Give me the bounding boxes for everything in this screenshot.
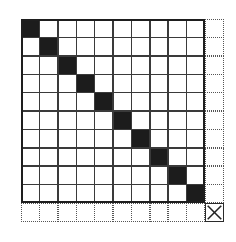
grid-cell — [186, 203, 205, 222]
grid-cell — [168, 129, 187, 148]
grid-cell — [113, 92, 132, 111]
grid-cell — [205, 74, 224, 93]
x-mark-icon — [206, 204, 223, 221]
grid-cell — [94, 184, 113, 203]
grid-cell — [131, 166, 150, 185]
grid-cell-filled — [39, 37, 58, 56]
grid-cell — [186, 92, 205, 111]
grid-cell-x-marked — [205, 203, 224, 222]
grid-cell — [76, 37, 95, 56]
grid-cell — [76, 92, 95, 111]
grid-cell — [168, 203, 187, 222]
grid-cell — [76, 203, 95, 222]
grid-cell — [58, 148, 77, 167]
grid-cell — [150, 56, 169, 75]
grid-cell — [76, 184, 95, 203]
grid-cell-filled — [94, 92, 113, 111]
grid-cell — [21, 111, 40, 130]
grid-cell — [94, 129, 113, 148]
grid-cell — [186, 111, 205, 130]
grid-cell — [113, 166, 132, 185]
grid-cell — [168, 92, 187, 111]
grid-cell — [131, 19, 150, 38]
grid-cell — [113, 184, 132, 203]
grid-cell — [58, 92, 77, 111]
grid-cell — [205, 184, 224, 203]
grid-cell-filled — [168, 166, 187, 185]
grid-cell — [205, 92, 224, 111]
grid-cell — [168, 111, 187, 130]
grid-cell — [186, 19, 205, 38]
grid-cell — [150, 203, 169, 222]
grid-cell — [150, 166, 169, 185]
grid-cell — [39, 74, 58, 93]
grid-cell — [39, 184, 58, 203]
grid-cell — [150, 111, 169, 130]
grid-cell — [94, 111, 113, 130]
grid-cell — [21, 184, 40, 203]
grid-cell — [150, 37, 169, 56]
grid-cell — [58, 19, 77, 38]
grid-cell — [186, 166, 205, 185]
grid-cell — [94, 37, 113, 56]
grid-cell — [131, 37, 150, 56]
diagonal-grid — [21, 19, 223, 221]
grid-cell — [58, 129, 77, 148]
grid-cell — [113, 37, 132, 56]
grid-cell — [76, 148, 95, 167]
grid-cell — [113, 56, 132, 75]
grid-cell — [21, 92, 40, 111]
grid-cell — [186, 37, 205, 56]
grid-cell — [39, 129, 58, 148]
grid-cell-filled — [58, 56, 77, 75]
grid-cell — [205, 19, 224, 38]
grid-cell-filled — [150, 148, 169, 167]
grid-cell — [150, 184, 169, 203]
grid-cell — [58, 74, 77, 93]
grid-cell — [94, 203, 113, 222]
grid-cell — [150, 129, 169, 148]
grid-cell — [21, 129, 40, 148]
grid-cell — [58, 37, 77, 56]
grid-cell — [94, 74, 113, 93]
grid-cell — [94, 56, 113, 75]
grid-cell — [186, 148, 205, 167]
grid-cell — [113, 148, 132, 167]
grid-cell — [21, 56, 40, 75]
grid-cell-filled — [21, 19, 40, 38]
grid-cell — [168, 37, 187, 56]
grid-cell — [168, 74, 187, 93]
grid-cell — [186, 129, 205, 148]
grid-cell — [21, 74, 40, 93]
grid-cell — [131, 111, 150, 130]
grid-cell — [205, 129, 224, 148]
grid-cell — [205, 111, 224, 130]
grid-cell — [39, 92, 58, 111]
grid-cell — [21, 37, 40, 56]
grid-cell — [168, 19, 187, 38]
grid-cell — [76, 129, 95, 148]
grid-cell — [21, 203, 40, 222]
grid-cell — [94, 19, 113, 38]
grid-cell — [205, 37, 224, 56]
grid-cell — [58, 184, 77, 203]
grid-cell — [168, 56, 187, 75]
grid-cell-filled — [131, 129, 150, 148]
grid-cell — [131, 56, 150, 75]
grid-cell — [58, 166, 77, 185]
grid-cell — [113, 19, 132, 38]
grid-cell — [58, 203, 77, 222]
grid-cell — [76, 166, 95, 185]
grid-cell — [131, 74, 150, 93]
grid-cell — [39, 56, 58, 75]
grid-cell — [168, 148, 187, 167]
grid-cell — [131, 184, 150, 203]
grid-cell — [205, 56, 224, 75]
grid-cell — [186, 56, 205, 75]
grid-cell — [113, 74, 132, 93]
grid-cell — [168, 184, 187, 203]
grid-cell — [131, 92, 150, 111]
grid-cell — [186, 74, 205, 93]
grid-cell — [150, 74, 169, 93]
grid-cell — [39, 111, 58, 130]
